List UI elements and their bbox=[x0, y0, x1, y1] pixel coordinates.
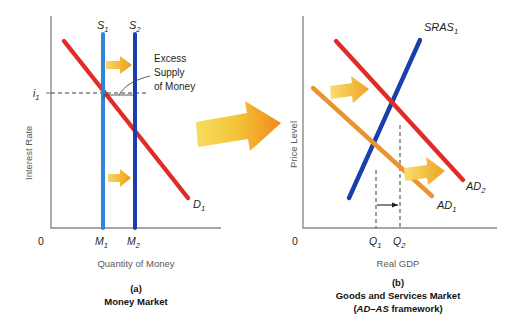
panel-a-origin-label: 0 bbox=[38, 235, 44, 247]
panel-a-caption-title: Money Market bbox=[104, 296, 168, 307]
panel-b-caption-title: Goods and Services Market bbox=[336, 290, 461, 301]
excess-supply-label-line3: of Money bbox=[154, 81, 195, 92]
panel-b-x-axis-label: Real GDP bbox=[377, 258, 420, 269]
economics-two-panel-figure: Excess Supply of Money S1 S2 D1 i1 M1 M2… bbox=[0, 0, 512, 333]
panel-b-y-axis-label: Price Level bbox=[288, 121, 299, 168]
panel-b-caption-subtitle: (AD–AS framework) bbox=[353, 303, 442, 314]
panel-a-caption-letter: (a) bbox=[130, 283, 142, 294]
panel-a-y-axis-label: Interest Rate bbox=[23, 126, 34, 180]
excess-supply-label-line2: Supply bbox=[154, 67, 185, 78]
excess-supply-label-line1: Excess bbox=[154, 53, 186, 64]
panel-b-origin-label: 0 bbox=[292, 235, 298, 247]
panel-b-caption-letter: (b) bbox=[392, 277, 404, 288]
panel-a-x-axis-label: Quantity of Money bbox=[97, 258, 174, 269]
